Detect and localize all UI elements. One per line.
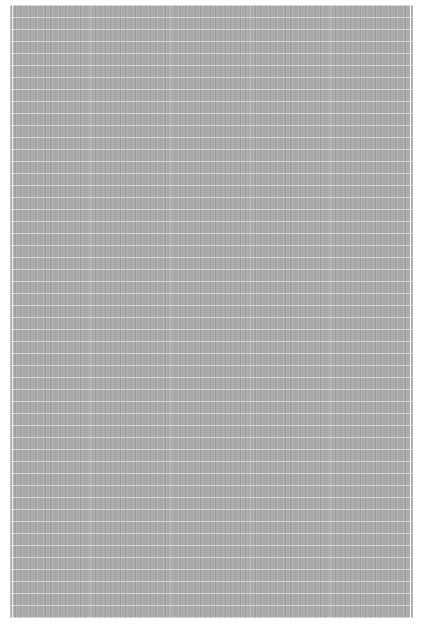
texture-panel [10, 5, 413, 618]
right-frame-line [410, 5, 411, 618]
left-frame-line [12, 5, 13, 618]
